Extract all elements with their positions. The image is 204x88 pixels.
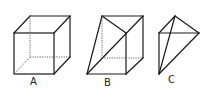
figure-c-tetrahedron: C xyxy=(159,16,199,85)
figure-a-cube: A xyxy=(14,16,70,87)
figure-c-label: C xyxy=(168,74,175,85)
figure-a-label: A xyxy=(30,76,37,87)
figure-b-label: B xyxy=(104,77,111,88)
figure-b-sliced-cube: B xyxy=(87,16,143,88)
diagram-canvas: A B C xyxy=(0,0,204,88)
